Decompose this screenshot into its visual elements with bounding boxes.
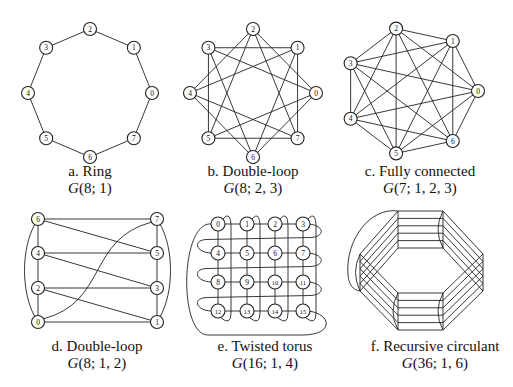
node: 1 [151, 316, 164, 329]
node: 9 [240, 275, 254, 289]
node: 2 [247, 23, 260, 36]
wrap-edge [25, 224, 36, 317]
caption-notation: G(16; 1, 4) [200, 355, 330, 372]
bundle-edge [443, 269, 483, 308]
node-label: 1 [132, 43, 136, 52]
edge [134, 93, 152, 138]
node-label: 13 [244, 308, 251, 315]
edge [396, 41, 453, 153]
panel-ring-graph: 01234567 [22, 23, 159, 164]
bundle-edge [443, 261, 483, 300]
node-label: 5 [44, 134, 48, 143]
node: 4 [184, 87, 197, 100]
node-label: 4 [349, 114, 353, 123]
node-label: 6 [36, 215, 40, 224]
node-label: 5 [245, 249, 249, 258]
node-label: 0 [150, 89, 154, 98]
wrap-edge [348, 211, 398, 291]
node-label: 2 [251, 25, 255, 34]
edge [453, 91, 478, 141]
node: 2 [268, 217, 282, 231]
node: 1 [127, 41, 140, 54]
node: 5 [202, 132, 215, 145]
caption-notation: G(8; 2, 3) [193, 180, 313, 197]
panel-double-loop-graph-8-1-2: 01234567 [25, 213, 171, 329]
edge [351, 63, 478, 91]
node: 4 [344, 112, 357, 125]
edge [351, 63, 396, 153]
bundle-edge [360, 276, 398, 315]
caption-title: c. Fully connected [350, 163, 490, 180]
node: 4 [211, 246, 225, 260]
caption-a: a. Ring G(8; 1) [30, 163, 150, 197]
node-label: 0 [36, 318, 40, 327]
node: 6 [84, 151, 97, 164]
edge [38, 288, 157, 322]
node-label: 15 [300, 308, 307, 315]
node: 7 [291, 132, 304, 145]
node: 8 [211, 275, 225, 289]
node: 3 [344, 57, 357, 70]
wrap-edge [438, 293, 443, 330]
edge [351, 41, 453, 119]
bundle-edge [360, 269, 398, 308]
node-label: 3 [301, 220, 305, 229]
node-label: 10 [272, 279, 279, 286]
node-label: 4 [36, 249, 40, 258]
node: 4 [22, 87, 35, 100]
edge [453, 41, 478, 91]
node: 7 [296, 246, 310, 260]
node-label: 9 [245, 278, 249, 287]
caption-d: d. Double-loop G(8; 1, 2) [37, 338, 157, 372]
node: 5 [40, 132, 53, 145]
node: 2 [84, 23, 97, 36]
bundle-edge [443, 284, 483, 323]
node-label: 5 [155, 249, 159, 258]
node-label: 7 [155, 215, 159, 224]
node-label: 3 [44, 43, 48, 52]
edge [90, 138, 134, 157]
panel-double-loop-graph-8-2-3: 01234567 [184, 23, 323, 164]
wrap-edge [438, 211, 443, 248]
wrap-edge [356, 254, 361, 291]
node-label: 7 [132, 134, 136, 143]
edge [38, 219, 157, 253]
caption-b: b. Double-loop G(8; 2, 3) [193, 163, 313, 197]
node: 11 [296, 275, 310, 289]
panel-twisted-torus-graph: 0123456789101112131415 [187, 216, 327, 335]
node-label: 12 [215, 308, 222, 315]
node: 0 [146, 87, 159, 100]
node-label: 2 [394, 24, 398, 33]
node: 15 [296, 304, 310, 318]
node-label: 1 [245, 220, 249, 229]
edge [90, 29, 134, 48]
node-label: 1 [451, 37, 455, 46]
node-label: 2 [88, 25, 92, 34]
node: 7 [127, 132, 140, 145]
panel-fully-connected-graph: 0123456 [344, 22, 484, 160]
node: 0 [32, 316, 45, 329]
node-label: 7 [301, 249, 305, 258]
node: 0 [310, 87, 323, 100]
bundle-edge [360, 261, 398, 300]
edge [253, 93, 316, 157]
node: 2 [390, 22, 403, 35]
node: 1 [446, 34, 459, 47]
node: 13 [240, 304, 254, 318]
node: 5 [390, 147, 403, 160]
bundle-edge [443, 291, 483, 330]
node-label: 7 [296, 134, 300, 143]
node-label: 3 [155, 284, 159, 293]
edge [28, 93, 46, 138]
node-label: 3 [207, 43, 211, 52]
node: 3 [296, 217, 310, 231]
wrap-edge [160, 224, 171, 317]
edge [351, 29, 396, 119]
node: 3 [151, 282, 164, 295]
node-label: 14 [272, 308, 279, 315]
node: 0 [472, 85, 485, 98]
bundle-edge [360, 254, 398, 293]
edge [351, 91, 478, 119]
caption-f: f. Recursive circulant G(36; 1, 6) [360, 338, 510, 372]
wrap-edge [393, 293, 398, 330]
